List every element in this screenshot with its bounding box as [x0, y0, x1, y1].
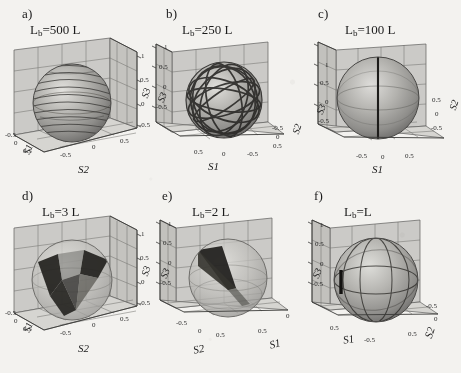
- panel-c-tick-s-0: 0.5: [432, 96, 441, 104]
- panel-d-plot: [0, 184, 152, 373]
- panel-f-tick-s-2: 0.5: [408, 330, 417, 338]
- panel-d-tick-f-2: 0.5: [120, 315, 129, 323]
- panel-b-tick-f-2: -0.5: [247, 150, 258, 158]
- panel-b-tick-v-0: 1: [164, 43, 168, 51]
- panel-e-tick-v-1: 0.5: [163, 239, 172, 247]
- panel-e-tick-f-0: -0.5: [176, 319, 187, 327]
- panel-d-axis-front-label: S2: [78, 342, 89, 354]
- panel-e-tick-v-3: -0.5: [160, 279, 171, 287]
- panel-b-tick-v-2: 0: [163, 83, 167, 91]
- panel-b-tick-v-3: -0.5: [156, 103, 167, 111]
- panel-f-tick-v-2: 0: [320, 260, 324, 268]
- panel-f-tick-v-0: 1: [320, 221, 324, 229]
- panel-d-tick-v-1: 0.5: [140, 254, 149, 262]
- panel-d-tick-v-2: 0: [141, 278, 145, 286]
- panel-d-tick-v-0: 1: [141, 230, 145, 238]
- panel-f-tick-s-0: -0.5: [426, 302, 437, 310]
- panel-c-tick-s-1: 0: [435, 110, 439, 118]
- panel-b-tick-s-0: -0.5: [272, 124, 283, 132]
- panel-d: d) Lb=3 L: [0, 184, 152, 373]
- panel-d-tick-v-3: -0.5: [139, 299, 150, 307]
- panel-f-plot: [300, 184, 457, 373]
- panel-e: e) Lb=2 L: [150, 184, 305, 373]
- panel-a-tick-v-2: 0: [141, 100, 145, 108]
- panel-a-tick-f-0: -0.5: [60, 151, 71, 159]
- panel-b-tick-f-0: 0.5: [194, 148, 203, 156]
- panel-c-tick-v-3: -0.5: [318, 117, 329, 125]
- panel-c-tick-f-0: -0.5: [356, 152, 367, 160]
- panel-a-tick-f-2: 0.5: [120, 137, 129, 145]
- panel-b-tick-s-1: 0: [276, 133, 280, 141]
- panel-b-axis-front-label: S1: [208, 160, 219, 172]
- panel-e-tick-s-1: 0: [286, 312, 290, 320]
- panel-c-plot: [300, 0, 457, 186]
- panel-b-plot: [150, 0, 305, 186]
- panel-b: b) Lb=250 L: [150, 0, 305, 186]
- panel-a-tick-v-0: 1: [141, 52, 145, 60]
- panel-b-tick-f-1: 0: [222, 150, 226, 158]
- panel-c-tick-f-2: 0.5: [405, 152, 414, 160]
- panel-d-tick-f-1: 0: [92, 321, 96, 329]
- panel-f-tick-f-1: -0.5: [364, 336, 375, 344]
- panel-e-plot: [150, 184, 305, 373]
- panel-e-tick-v-2: 0: [168, 259, 172, 267]
- panel-f-axis-front-label: S1: [342, 332, 355, 346]
- panel-e-tick-f-1: 0: [198, 327, 202, 335]
- panel-c-axis-front-label: S1: [372, 163, 383, 175]
- panel-e-tick-f-2: 0.5: [216, 331, 225, 339]
- panel-a-tick-s-1: 0: [14, 139, 18, 147]
- panel-c-tick-v-0: 1: [325, 61, 329, 69]
- panel-a-plot: [0, 0, 152, 186]
- panel-c-tick-f-1: 0: [381, 153, 385, 161]
- panel-f-tick-s-1: 0: [434, 315, 438, 323]
- panel-e-axis-front-label: S2: [192, 342, 205, 356]
- panel-a-tick-s-0: -0.5: [5, 131, 16, 139]
- panel-a-tick-v-3: -0.5: [139, 121, 150, 129]
- panel-e-tick-s-0: 0.5: [258, 327, 267, 335]
- panel-d-tick-s-0: -0.5: [5, 309, 16, 317]
- panel-f-tick-v-1: 0.5: [315, 240, 324, 248]
- panel-a-tick-f-1: 0: [92, 143, 96, 151]
- panel-f: f) Lb=L: [300, 184, 457, 373]
- panel-a-axis-front-label: S2: [78, 163, 89, 175]
- panel-c-tick-s-2: -0.5: [431, 124, 442, 132]
- panel-f-tick-f-0: 0.5: [330, 324, 339, 332]
- panel-e-tick-v-0: 1: [168, 220, 172, 228]
- panel-c: c) Lb=100 L: [300, 0, 457, 186]
- panel-f-tick-v-3: -0.5: [312, 280, 323, 288]
- panel-c-tick-v-1: 0.5: [320, 79, 329, 87]
- panel-a: a) Lb=500 L: [0, 0, 152, 186]
- panel-a-tick-v-1: 0.5: [140, 76, 149, 84]
- panel-d-tick-f-0: -0.5: [60, 329, 71, 337]
- panel-d-tick-s-1: 0: [14, 317, 18, 325]
- panel-b-tick-v-1: 0.5: [159, 63, 168, 71]
- panel-b-tick-s-2: 0.5: [273, 142, 282, 150]
